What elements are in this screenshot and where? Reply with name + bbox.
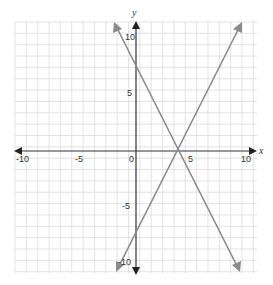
x-tick-m5: -5 [75,154,83,164]
x-tick-0: 0 [129,154,134,164]
y-axis-down-arrow-icon [132,267,140,275]
y-tick-m10: -10 [118,257,131,267]
x-tick-10: 10 [241,154,251,164]
y-tick-5: 5 [127,88,132,98]
x-tick-5: 5 [188,154,193,164]
x-axis-label: x [258,145,264,156]
y-axis-label: y [131,7,137,18]
line-decreasing-arrow-bottom-icon [232,261,241,272]
coordinate-plane: y x -10 -5 0 5 10 10 5 -5 -10 [0,0,273,285]
y-tick-m5: -5 [122,201,130,211]
x-tick-m10: -10 [16,154,29,164]
y-tick-10: 10 [125,32,135,42]
